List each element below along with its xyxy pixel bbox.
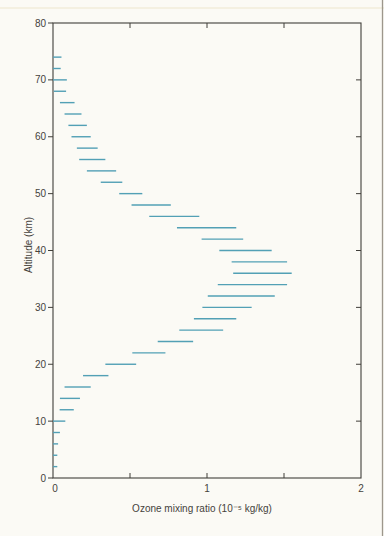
y-axis-tick-label-10: 10 [35,416,47,427]
y-axis-tick-label-20: 20 [35,359,47,370]
x-axis-title: Ozone mixing ratio (10⁻⁵ kg/kg) [132,503,272,514]
y-axis-tick-label-50: 50 [35,188,47,199]
top-scan-band [0,7,384,9]
y-axis-tick-label-30: 30 [35,302,47,313]
x-axis-tick-label-0: 0 [52,483,58,494]
plot-frame [53,23,361,478]
y-axis-tick-label-60: 60 [35,131,47,142]
plot-area: 01020304050607080012 [35,18,364,495]
y-axis-tick-label-40: 40 [35,245,47,256]
ozone-profile-chart: 01020304050607080012 Altitude (km) Ozone… [0,0,384,536]
y-axis-tick-label-80: 80 [35,18,47,29]
x-axis-tick-label-1: 1 [204,483,210,494]
x-axis-tick-label-2: 2 [358,483,364,494]
y-axis-title: Altitude (km) [23,217,34,273]
scanned-textbook-page: 01020304050607080012 Altitude (km) Ozone… [0,0,384,536]
y-axis-tick-label-0: 0 [40,473,46,484]
y-axis-tick-label-70: 70 [35,74,47,85]
